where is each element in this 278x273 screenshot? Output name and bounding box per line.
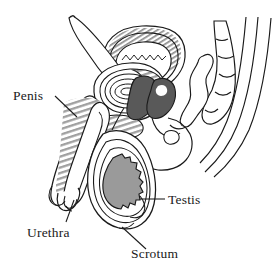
label-testis: Testis <box>168 192 201 207</box>
label-urethra: Urethra <box>27 225 70 240</box>
label-penis: Penis <box>13 88 43 103</box>
label-scrotum: Scrotum <box>131 246 178 261</box>
vertebra-divider-1 <box>216 39 228 41</box>
anatomy-illustration: Penis Urethra Testis Scrotum <box>0 0 278 273</box>
anatomy-diagram: Penis Urethra Testis Scrotum <box>0 0 278 273</box>
cowper-gland <box>164 131 179 145</box>
